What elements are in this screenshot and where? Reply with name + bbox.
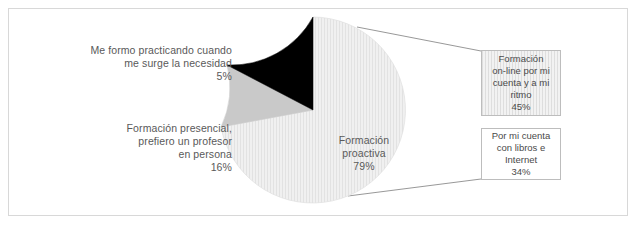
pie-label-presencial: Formación presencial, prefiero un profes… bbox=[72, 122, 232, 174]
pie-label-proactiva: Formación proactiva 79% bbox=[318, 134, 410, 173]
callout-box-libros: Por mi cuenta con libros e Internet 34% bbox=[481, 128, 561, 180]
chart-figure: Me formo practicando cuando me surge la … bbox=[0, 0, 638, 226]
callout-box-online: Formación on-line por mi cuenta y a mi r… bbox=[481, 50, 561, 116]
pie-label-practicando: Me formo practicando cuando me surge la … bbox=[52, 44, 232, 83]
